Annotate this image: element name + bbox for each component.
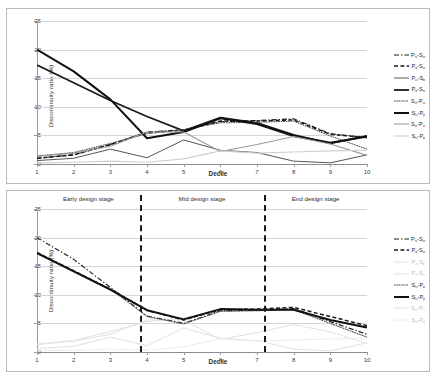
legend-swatch bbox=[394, 121, 409, 127]
legend-label: Sн-Pк bbox=[411, 317, 425, 324]
x-axis-line bbox=[37, 164, 367, 165]
stage-divider bbox=[264, 195, 266, 352]
x-tick-mark bbox=[37, 164, 38, 167]
x-tick-mark bbox=[257, 352, 258, 355]
legend-swatch bbox=[394, 87, 409, 93]
legend-swatch bbox=[394, 236, 409, 242]
stage-label: Early design stage bbox=[63, 195, 114, 202]
legend-swatch bbox=[394, 133, 409, 139]
x-tick-label: 3 bbox=[109, 169, 112, 175]
plot-area-top: Discontinuity ratio (%) 0510152025 Decil… bbox=[7, 9, 429, 183]
x-tick-label: 5 bbox=[182, 169, 185, 175]
legend-item[interactable]: Pк-Sн bbox=[293, 61, 425, 73]
legend-item[interactable]: Pк-Sн bbox=[293, 245, 425, 257]
legend-item[interactable]: Pн-Sк bbox=[293, 256, 425, 268]
x-tick-mark bbox=[147, 352, 148, 355]
legend-label: Pн-Sк bbox=[411, 259, 425, 266]
legend-swatch bbox=[394, 75, 409, 81]
x-tick-label: 1 bbox=[35, 169, 38, 175]
x-tick-label: 3 bbox=[109, 357, 112, 363]
legend-swatch bbox=[394, 282, 409, 288]
x-tick-label: 10 bbox=[364, 357, 371, 363]
legend-label: Sн-Pн bbox=[411, 305, 425, 312]
chart-panel-bottom: Discontinuity ratio (%) 0510152025 Decil… bbox=[6, 190, 430, 372]
x-tick-mark bbox=[257, 164, 258, 167]
stage-label: Mid design stage bbox=[179, 195, 226, 202]
legend-item[interactable]: Sн-Pк bbox=[293, 130, 425, 142]
chart-panel-top: Discontinuity ratio (%) 0510152025 Decil… bbox=[6, 8, 430, 184]
x-tick-label: 4 bbox=[145, 357, 148, 363]
legend-swatch bbox=[394, 52, 409, 58]
legend-label: Sн-Pк bbox=[411, 133, 425, 140]
legend-item[interactable]: Sн-Pн bbox=[293, 303, 425, 315]
legend-label: Pн-Sн bbox=[411, 52, 425, 59]
legend-label: Sн-Pк bbox=[411, 294, 425, 301]
x-tick-mark bbox=[110, 352, 111, 355]
x-tick-label: 7 bbox=[255, 357, 258, 363]
legend-swatch bbox=[394, 305, 409, 311]
figure-root: Discontinuity ratio (%) 0510152025 Decil… bbox=[0, 0, 436, 378]
x-tick-mark bbox=[147, 164, 148, 167]
legend-item[interactable]: Pн-Sк bbox=[293, 72, 425, 84]
x-tick-mark bbox=[330, 352, 331, 355]
legend-label: Sн-Pн bbox=[411, 121, 425, 128]
x-tick-mark bbox=[367, 352, 368, 355]
x-tick-label: 8 bbox=[292, 357, 295, 363]
legend-swatch bbox=[394, 317, 409, 323]
legend-swatch bbox=[394, 63, 409, 69]
x-tick-mark bbox=[37, 352, 38, 355]
legend-swatch bbox=[394, 110, 409, 116]
legend-label: Pк-Sн bbox=[411, 63, 425, 70]
stage-label: End design stage bbox=[292, 195, 340, 202]
legend-item[interactable]: Pн-Sн bbox=[293, 49, 425, 61]
legend-label: Pк-Sн bbox=[411, 270, 425, 277]
x-tick-mark bbox=[294, 164, 295, 167]
legend-label: Sн-Pк bbox=[411, 282, 425, 289]
legend-item[interactable]: Sн-Pн bbox=[293, 95, 425, 107]
legend-item[interactable]: Sн-Pк bbox=[293, 314, 425, 326]
x-tick-mark bbox=[220, 352, 221, 355]
legend-item[interactable]: Sн-Pк bbox=[293, 291, 425, 303]
legend-swatch bbox=[394, 259, 409, 265]
x-axis-line bbox=[37, 352, 367, 353]
legend-item[interactable]: Sн-Pн bbox=[293, 119, 425, 131]
plot-area-bottom: Discontinuity ratio (%) 0510152025 Decil… bbox=[7, 191, 429, 371]
x-tick-label: 7 bbox=[255, 169, 258, 175]
legend-item[interactable]: Pк-Sн bbox=[293, 268, 425, 280]
x-tick-label: 9 bbox=[329, 357, 332, 363]
legend-swatch bbox=[394, 271, 409, 277]
x-tick-label: 5 bbox=[182, 357, 185, 363]
x-tick-mark bbox=[330, 164, 331, 167]
x-tick-mark bbox=[220, 164, 221, 167]
x-tick-mark bbox=[367, 164, 368, 167]
x-tick-mark bbox=[294, 352, 295, 355]
x-tick-label: 6 bbox=[219, 357, 222, 363]
legend-item[interactable]: Pк-Sн bbox=[293, 84, 425, 96]
legend-label: Pн-Sн bbox=[411, 236, 425, 243]
x-tick-label: 9 bbox=[329, 169, 332, 175]
legend-swatch bbox=[394, 247, 409, 253]
x-tick-label: 8 bbox=[292, 169, 295, 175]
legend-item[interactable]: Sн-Pк bbox=[293, 279, 425, 291]
legend-label: Sн-Pк bbox=[411, 110, 425, 117]
x-tick-label: 4 bbox=[145, 169, 148, 175]
legend-bottom: Pн-SнPк-SнPн-SкPк-SнSн-PкSн-PкSн-PнSн-Pк bbox=[293, 233, 425, 326]
x-tick-mark bbox=[184, 164, 185, 167]
stage-divider bbox=[140, 195, 142, 352]
x-tick-label: 2 bbox=[72, 169, 75, 175]
legend-top: Pн-SнPк-SнPн-SкPк-SнSн-PнSн-PкSн-PнSн-Pк bbox=[293, 49, 425, 142]
x-tick-mark bbox=[74, 352, 75, 355]
legend-label: Pк-Sн bbox=[411, 247, 425, 254]
legend-label: Pк-Sн bbox=[411, 86, 425, 93]
x-tick-label: 2 bbox=[72, 357, 75, 363]
legend-swatch bbox=[394, 98, 409, 104]
x-tick-mark bbox=[110, 164, 111, 167]
x-tick-label: 6 bbox=[219, 169, 222, 175]
legend-label: Pн-Sк bbox=[411, 75, 425, 82]
legend-swatch bbox=[394, 294, 409, 300]
legend-item[interactable]: Pн-Sн bbox=[293, 233, 425, 245]
series-line bbox=[37, 150, 367, 163]
legend-label: Sн-Pн bbox=[411, 98, 425, 105]
x-tick-label: 1 bbox=[35, 357, 38, 363]
legend-item[interactable]: Sн-Pк bbox=[293, 107, 425, 119]
